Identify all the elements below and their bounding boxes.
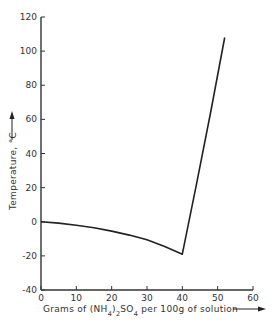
x-axis-label: Grams of (NH4)2SO4 per 100g of solution bbox=[43, 304, 238, 318]
y-tick-label: 60 bbox=[26, 114, 38, 124]
y-axis: -40-20020406080100120 bbox=[20, 12, 45, 295]
x-tick-label: 60 bbox=[247, 293, 259, 303]
chart: -40-20020406080100120 0102030405060 Temp… bbox=[0, 0, 276, 327]
y-tick-label: 20 bbox=[26, 183, 38, 193]
y-tick-label: 80 bbox=[26, 80, 38, 90]
y-tick-label: -20 bbox=[22, 251, 37, 261]
x-tick-label: 40 bbox=[177, 293, 189, 303]
y-axis-label: Temperature, °C bbox=[8, 132, 18, 211]
x-tick-label: 0 bbox=[38, 293, 44, 303]
data-line bbox=[41, 38, 225, 255]
y-tick-label: 0 bbox=[31, 217, 37, 227]
y-tick-label: -40 bbox=[22, 285, 37, 295]
y-tick-label: 40 bbox=[26, 149, 38, 159]
x-axis: 0102030405060 bbox=[38, 286, 259, 303]
x-tick-label: 20 bbox=[106, 293, 118, 303]
x-tick-label: 30 bbox=[141, 293, 153, 303]
x-tick-label: 10 bbox=[71, 293, 83, 303]
y-tick-label: 120 bbox=[20, 12, 37, 22]
y-tick-label: 100 bbox=[20, 46, 37, 56]
x-tick-label: 50 bbox=[212, 293, 224, 303]
